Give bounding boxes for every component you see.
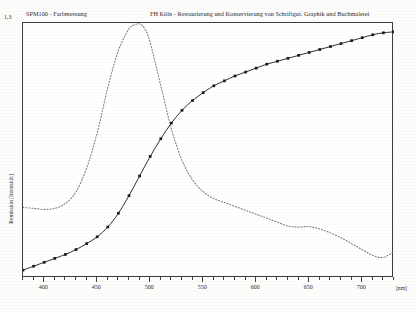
x-axis-tick-label: 500 [145,284,154,290]
data-point-marker [329,45,332,48]
x-axis-minor-tick [329,277,330,280]
x-axis-major-tick [255,277,256,282]
data-point-marker [75,248,78,251]
x-axis-minor-tick [213,277,214,280]
data-point-marker [318,48,321,51]
data-point-marker [212,84,215,87]
plot-area [22,22,393,277]
x-axis-major-tick [202,277,203,282]
x-axis-minor-tick [319,277,320,280]
x-axis-minor-tick [192,277,193,280]
instrument-title: SPM100 - Farbmessung [26,10,87,17]
x-axis-minor-tick [170,277,171,280]
chart-page: SPM100 - Farbmessung FH Köln - Restaurie… [0,0,416,312]
x-axis-minor-tick [276,277,277,280]
data-point-marker [43,261,46,264]
x-axis-minor-tick [75,277,76,280]
x-axis-minor-tick [245,277,246,280]
data-point-marker [255,67,258,70]
data-point-marker [350,39,353,42]
data-point-marker [149,155,152,158]
x-axis: 400450500550600650700 [nm] [22,277,393,312]
data-point-marker [308,51,311,54]
data-point-marker [159,137,162,140]
x-axis-major-tick [149,277,150,282]
series-line-remission [23,32,394,270]
data-point-marker [223,80,226,83]
x-axis-minor-tick [117,277,118,280]
data-point-marker [202,91,205,94]
x-axis-tick-label: 400 [39,284,48,290]
x-axis-minor-tick [382,277,383,280]
data-point-marker [106,226,109,229]
data-point-marker [244,71,247,74]
x-axis-major-tick [308,277,309,282]
institution-title: FH Köln - Restaurierung und Konservierun… [150,10,369,17]
y-axis-title: Remission [Intensität] [8,154,14,244]
data-point-marker [276,60,279,63]
x-axis-tick-label: 450 [92,284,101,290]
x-axis-minor-tick [266,277,267,280]
data-point-marker [265,63,268,66]
data-point-marker [297,54,300,57]
x-axis-minor-tick [393,277,394,280]
x-axis-minor-tick [86,277,87,280]
data-point-marker [191,99,194,102]
x-axis-minor-tick [234,277,235,280]
x-axis-minor-tick [372,277,373,280]
data-point-marker [23,269,24,272]
x-axis-minor-tick [340,277,341,280]
x-axis-minor-tick [54,277,55,280]
x-axis-minor-tick [160,277,161,280]
data-point-marker [371,33,374,36]
data-point-marker [181,109,184,112]
x-axis-minor-tick [298,277,299,280]
x-axis-minor-tick [64,277,65,280]
series-markers-remission [23,30,394,271]
x-axis-minor-tick [287,277,288,280]
series-group [23,24,394,272]
data-point-marker [393,30,394,33]
x-axis-minor-tick [107,277,108,280]
x-axis-tick-label: 600 [251,284,260,290]
data-point-marker [117,212,120,215]
x-axis-minor-tick [181,277,182,280]
x-axis-tick-label: 700 [357,284,366,290]
x-axis-unit-label: [nm] [396,285,407,291]
x-axis-minor-tick [22,277,23,280]
y-axis-max-label: 1,3 [4,14,12,20]
x-axis-minor-tick [223,277,224,280]
page-header: SPM100 - Farbmessung FH Köln - Restaurie… [0,0,416,22]
data-point-marker [287,57,290,60]
data-point-marker [382,31,385,34]
series-line-anregungsspektrum [23,24,394,258]
plot-canvas [23,23,394,278]
data-point-marker [170,122,173,125]
data-point-marker [234,75,237,78]
data-point-marker [128,194,131,197]
x-axis-minor-tick [33,277,34,280]
data-point-marker [340,42,343,45]
x-axis-tick-label: 650 [304,284,313,290]
data-point-marker [64,253,67,256]
x-axis-minor-tick [351,277,352,280]
x-axis-major-tick [96,277,97,282]
x-axis-tick-label: 550 [198,284,207,290]
data-point-marker [32,265,35,268]
x-axis-major-tick [43,277,44,282]
x-axis-minor-tick [128,277,129,280]
x-axis-minor-tick [139,277,140,280]
data-point-marker [138,175,141,178]
data-point-marker [361,36,364,39]
data-point-marker [85,242,88,245]
data-point-marker [53,257,56,260]
data-point-marker [96,235,99,238]
x-axis-major-tick [361,277,362,282]
